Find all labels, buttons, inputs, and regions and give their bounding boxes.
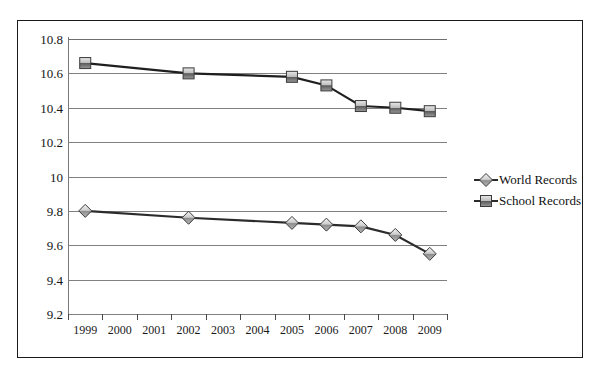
y-tick-label: 9.4 <box>47 274 63 287</box>
x-tick <box>378 314 379 320</box>
x-tick <box>240 314 241 320</box>
x-tick-label: 2002 <box>177 323 201 338</box>
gridline <box>68 177 447 178</box>
y-tick-label: 10.2 <box>40 136 63 149</box>
x-tick-label: 2009 <box>418 323 442 338</box>
gridline <box>68 108 447 109</box>
x-tick-label: 2007 <box>349 323 373 338</box>
chart-container: 10.810.610.410.2109.89.69.49.2 199920002… <box>17 20 583 358</box>
x-tick-label: 2000 <box>108 323 132 338</box>
x-tick <box>309 314 310 320</box>
x-tick <box>102 314 103 320</box>
y-tick-label: 10.4 <box>40 102 63 115</box>
x-tick-label: 2004 <box>246 323 270 338</box>
x-tick-label: 1999 <box>73 323 97 338</box>
y-tick-label: 10.6 <box>40 67 63 80</box>
x-tick <box>344 314 345 320</box>
gridline <box>68 211 447 212</box>
x-tick-label: 2001 <box>142 323 166 338</box>
plot-area <box>68 39 447 314</box>
x-tick-label: 2008 <box>383 323 407 338</box>
x-tick <box>447 314 448 320</box>
gridline <box>68 314 447 315</box>
gridline <box>68 245 447 246</box>
x-tick-label: 2005 <box>280 323 304 338</box>
chart-legend: World RecordsSchool Records <box>473 169 578 211</box>
legend-item[interactable]: World Records <box>473 169 578 190</box>
y-tick-label: 9.2 <box>47 308 63 321</box>
x-tick <box>275 314 276 320</box>
legend-item[interactable]: School Records <box>473 190 578 211</box>
gridline <box>68 39 447 40</box>
y-tick-label: 10.8 <box>40 33 63 46</box>
legend-label: World Records <box>499 173 577 186</box>
square-marker-icon <box>473 193 499 209</box>
y-axis-labels: 10.810.610.410.2109.89.69.49.2 <box>18 21 63 359</box>
y-tick-label: 9.6 <box>47 239 63 252</box>
gridline <box>68 280 447 281</box>
diamond-marker-icon <box>473 172 499 188</box>
y-tick-label: 9.8 <box>47 205 63 218</box>
x-tick <box>413 314 414 320</box>
y-tick-label: 10 <box>50 171 63 184</box>
x-tick <box>137 314 138 320</box>
x-tick-label: 2003 <box>211 323 235 338</box>
gridline <box>68 73 447 74</box>
x-tick-label: 2006 <box>314 323 338 338</box>
legend-label: School Records <box>499 194 581 207</box>
x-tick <box>206 314 207 320</box>
x-tick <box>171 314 172 320</box>
x-tick <box>68 314 69 320</box>
gridline <box>68 142 447 143</box>
